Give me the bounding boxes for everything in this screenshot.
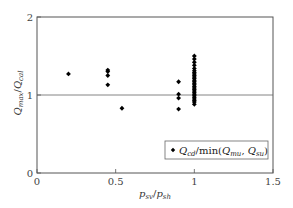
y-tick-label: 2	[27, 12, 33, 23]
x-axis: 00.511.5	[34, 169, 281, 187]
x-axis-label: psv/psh	[139, 188, 171, 201]
legend: Qcd/min(Qmu, Qsu)	[165, 141, 268, 159]
data-point	[176, 79, 181, 84]
x-tick-label: 1.5	[265, 176, 281, 187]
data-point	[176, 96, 181, 101]
data-point	[66, 72, 71, 77]
data-point	[105, 73, 110, 78]
data-point	[120, 106, 125, 111]
y-axis-label: Qmax/Qcal	[12, 71, 25, 116]
y-axis: 012	[27, 12, 41, 179]
data-point	[176, 107, 181, 112]
x-tick-label: 0	[34, 176, 40, 187]
y-tick-label: 0	[27, 168, 33, 179]
x-tick-label: 0.5	[108, 176, 124, 187]
x-tick-label: 1	[191, 176, 197, 187]
data-point	[105, 82, 110, 87]
data-series	[66, 54, 197, 112]
scatter-chart: 00.511.5 012 psv/psh Qmax/Qcal Qcd/min(Q…	[0, 0, 293, 208]
y-tick-label: 1	[27, 90, 33, 101]
